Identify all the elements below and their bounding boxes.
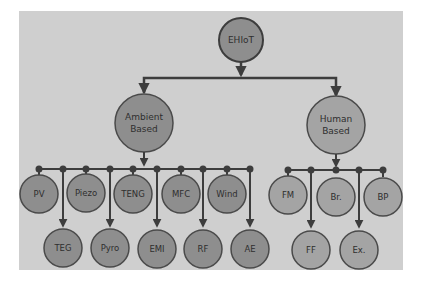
leaf-ex: Ex. bbox=[340, 231, 378, 269]
root-label: EHIoT bbox=[228, 35, 255, 45]
leaf-br: Br. bbox=[317, 178, 355, 216]
leaf-rf: RF bbox=[184, 230, 222, 268]
leaf-ff-label: FF bbox=[306, 245, 316, 255]
leaf-piezo-label: Piezo bbox=[75, 188, 97, 198]
leaf-bp-label: BP bbox=[378, 192, 389, 202]
root-node: EHIoT bbox=[219, 18, 263, 62]
category-ambient-based: Ambient Based bbox=[115, 94, 173, 152]
category-human-based: Human Based bbox=[307, 96, 365, 154]
leaf-ae: AE bbox=[231, 230, 269, 268]
leaf-mfc: MFC bbox=[162, 175, 200, 213]
leaf-teg-label: TEG bbox=[53, 243, 71, 253]
leaf-wind: Wind bbox=[208, 175, 246, 213]
leaf-pyro-label: Pyro bbox=[101, 243, 120, 253]
leaf-pv: PV bbox=[20, 175, 58, 213]
leaf-ex-label: Ex. bbox=[352, 245, 365, 255]
leaf-emi-label: EMI bbox=[149, 244, 164, 254]
ambient-label-line1: Ambient bbox=[125, 112, 163, 122]
human-label-line2: Based bbox=[322, 126, 350, 136]
leaf-teg: TEG bbox=[44, 229, 82, 267]
leaf-piezo: Piezo bbox=[67, 174, 105, 212]
leaf-bp: BP bbox=[364, 178, 402, 216]
leaf-fm-label: FM bbox=[282, 190, 294, 200]
leaf-wind-label: Wind bbox=[216, 189, 237, 199]
leaf-fm: FM bbox=[269, 176, 307, 214]
leaf-rf-label: RF bbox=[198, 244, 209, 254]
leaf-br-label: Br. bbox=[330, 192, 341, 202]
leaf-ae-label: AE bbox=[244, 244, 255, 254]
leaf-emi: EMI bbox=[138, 230, 176, 268]
leaf-teng-label: TENG bbox=[120, 189, 145, 199]
leaf-ff: FF bbox=[292, 231, 330, 269]
leaf-teng: TENG bbox=[114, 175, 152, 213]
leaf-mfc-label: MFC bbox=[172, 189, 190, 199]
leaf-pv-label: PV bbox=[34, 189, 45, 199]
ambient-label-line2: Based bbox=[130, 124, 158, 134]
human-label-line1: Human bbox=[320, 114, 352, 124]
ehiot-taxonomy-diagram: EHIoT Ambient Based Human Based bbox=[0, 0, 423, 287]
leaf-pyro: Pyro bbox=[91, 229, 129, 267]
